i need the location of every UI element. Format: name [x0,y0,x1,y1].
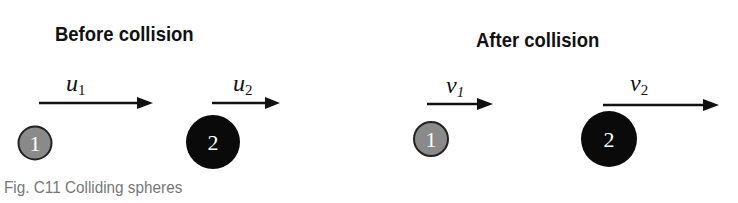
v1-arrow-icon [427,98,493,110]
u2-arrow-icon [212,97,280,109]
collision-diagram: 1 2 1 2 [0,0,738,203]
before-sphere-2-label: 2 [208,130,219,155]
before-sphere-1-label: 1 [30,131,41,156]
v2-arrow-icon [603,99,719,111]
after-sphere-2-label: 2 [604,127,615,152]
figure-caption: Fig. C11 Colliding spheres [4,178,182,198]
u1-arrow-icon [39,97,153,109]
after-sphere-1-label: 1 [426,127,437,152]
